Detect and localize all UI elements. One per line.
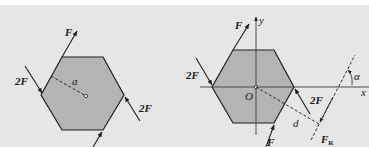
statics-diagram: F 2F 2F a F y 2F O 2F α x d F FR xyxy=(0,0,369,147)
center-point xyxy=(84,94,87,97)
label-a: a xyxy=(72,75,78,87)
label-2F-left: 2F xyxy=(14,75,29,87)
label-alpha: α xyxy=(354,70,360,82)
label-2F-left: 2F xyxy=(185,69,200,81)
label-O: O xyxy=(245,90,253,102)
label-x: x xyxy=(360,86,366,98)
label-y: y xyxy=(258,14,264,26)
label-F-top: F xyxy=(64,26,73,38)
label-2F-right: 2F xyxy=(309,94,324,106)
label-d: d xyxy=(293,117,299,129)
label-F-top: F xyxy=(234,19,243,31)
label-F-bottom: F xyxy=(266,136,275,147)
label-2F-right: 2F xyxy=(138,102,153,114)
